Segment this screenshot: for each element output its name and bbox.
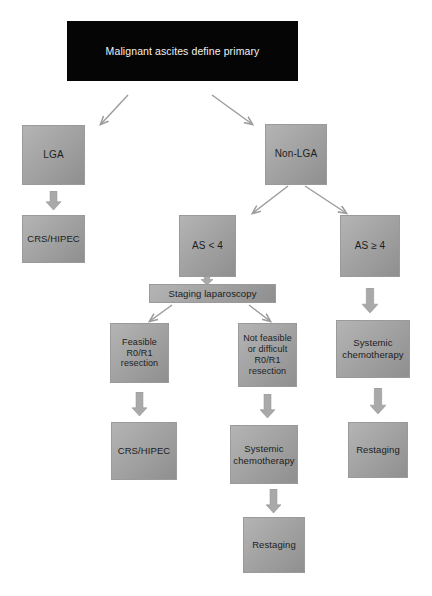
node-label: AS < 4 bbox=[189, 240, 226, 252]
node-staging: Staging laparoscopy bbox=[149, 284, 276, 303]
node-label: Systemic chemotherapy bbox=[230, 443, 297, 466]
node-label: Systemic chemotherapy bbox=[339, 337, 406, 360]
node-label: Feasible R0/R1 resection bbox=[118, 337, 161, 370]
node-as_ge4: AS ≥ 4 bbox=[340, 215, 400, 277]
node-restaging_right: Restaging bbox=[348, 422, 408, 478]
block-arrow-feasible-to-crs bbox=[132, 392, 147, 416]
node-chemo_right: Systemic chemotherapy bbox=[336, 320, 410, 378]
node-label: Restaging bbox=[353, 444, 403, 456]
node-label: Staging laparoscopy bbox=[166, 288, 260, 300]
node-malignant-ascites-define-primary: Malignant ascites define primary bbox=[67, 21, 298, 81]
connector-title-to-lga bbox=[101, 95, 128, 124]
node-as_lt4: AS < 4 bbox=[179, 215, 236, 277]
flowchart-canvas: Malignant ascites define primary LGANon-… bbox=[0, 0, 432, 596]
node-feasible: Feasible R0/R1 resection bbox=[110, 323, 169, 383]
connector-nonlga-to-asge4 bbox=[305, 186, 346, 213]
block-arrow-lga-to-crs bbox=[46, 191, 61, 210]
node-not_feasible: Not feasible or difficult R0/R1 resectio… bbox=[238, 323, 297, 387]
connector-title-to-nonlga bbox=[212, 95, 252, 124]
connector-staging-to-notfeas bbox=[249, 305, 270, 321]
node-crs_left: CRS/HIPEC bbox=[22, 215, 85, 263]
node-label: Non-LGA bbox=[272, 148, 320, 160]
node-restaging_mid: Restaging bbox=[243, 517, 305, 573]
node-label: Malignant ascites define primary bbox=[103, 45, 263, 58]
block-arrow-notfeasible-to-chemo bbox=[260, 394, 275, 418]
node-chemo_mid: Systemic chemotherapy bbox=[230, 425, 298, 484]
node-label: Restaging bbox=[249, 539, 299, 551]
connector-staging-to-feasible bbox=[150, 305, 172, 321]
node-label: Not feasible or difficult R0/R1 resectio… bbox=[240, 333, 295, 377]
node-label: CRS/HIPEC bbox=[24, 233, 83, 245]
node-nonlga: Non-LGA bbox=[265, 124, 327, 185]
block-arrow-chemo-right-to-restaging bbox=[370, 388, 386, 414]
node-label: LGA bbox=[40, 149, 66, 161]
block-arrow-chemo-mid-to-restaging bbox=[266, 489, 281, 513]
connector-nonlga-to-aslt4 bbox=[253, 186, 288, 213]
node-label: AS ≥ 4 bbox=[352, 240, 389, 252]
node-crs_mid: CRS/HIPEC bbox=[111, 422, 177, 480]
node-label: CRS/HIPEC bbox=[115, 445, 174, 457]
node-lga: LGA bbox=[22, 125, 85, 185]
block-arrow-asge4-to-chemo bbox=[362, 288, 378, 313]
